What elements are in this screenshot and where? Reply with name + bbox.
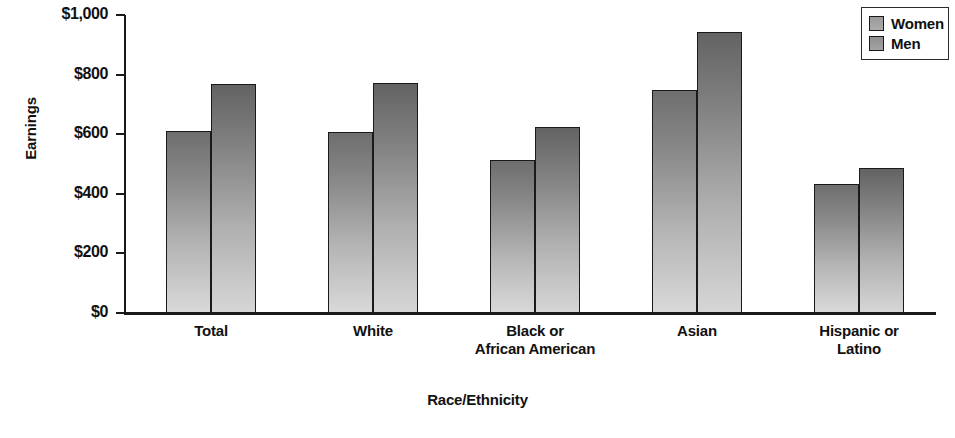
bar-women-2 <box>328 132 373 313</box>
bar-group <box>328 15 418 313</box>
bar-group <box>166 15 256 313</box>
y-axis-tick-label: $400 <box>26 185 108 201</box>
bar-women-4 <box>652 90 697 314</box>
legend: Women Men <box>861 7 949 60</box>
legend-swatch-women-icon <box>869 16 884 31</box>
x-axis-category-label-line: Latino <box>749 340 955 358</box>
bar-women-5 <box>814 184 859 313</box>
x-axis-title: Race/Ethnicity <box>0 391 955 408</box>
y-axis-tick-label: $800 <box>26 66 108 82</box>
bar-men-1 <box>211 84 256 313</box>
bar-men-4 <box>697 32 742 313</box>
bar-men-3 <box>535 127 580 313</box>
legend-swatch-men-icon <box>869 36 884 51</box>
y-axis-tick-label: $1,000 <box>26 6 108 22</box>
bar-women-3 <box>490 160 535 313</box>
bar-men-5 <box>859 168 904 313</box>
bar-women-1 <box>166 131 211 313</box>
x-axis-category-label: Hispanic orLatino <box>749 322 955 359</box>
legend-item-men: Men <box>869 33 942 53</box>
y-axis-tick-labels: $0$200$400$600$800$1,000 <box>26 0 108 330</box>
bar-group <box>652 15 742 313</box>
bar-chart: Earnings $0$200$400$600$800$1,000 TotalW… <box>0 0 955 438</box>
plot-area <box>126 15 936 313</box>
x-axis-category-label-line: Hispanic or <box>749 322 955 340</box>
legend-label-women: Women <box>891 15 944 32</box>
bar-group <box>490 15 580 313</box>
y-axis-tick-label: $600 <box>26 125 108 141</box>
legend-item-women: Women <box>869 13 942 33</box>
y-axis-tick-label: $0 <box>26 304 108 320</box>
x-axis-category-label-line: African American <box>425 340 645 358</box>
legend-label-men: Men <box>891 35 920 52</box>
bar-men-2 <box>373 83 418 313</box>
y-axis-tick-label: $200 <box>26 244 108 260</box>
